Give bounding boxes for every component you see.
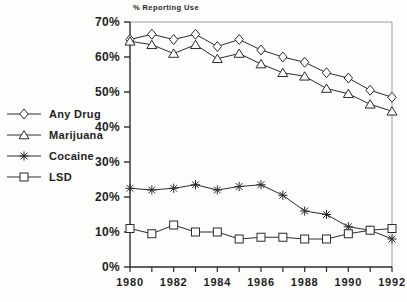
legend-marker-diamond-icon xyxy=(5,107,43,121)
x-tick-label: 1982 xyxy=(160,276,188,288)
y-tick-label: 20% xyxy=(95,190,120,204)
marker-diamond-any-drug-icon xyxy=(235,35,243,45)
marker-square-lsd-icon xyxy=(257,233,265,241)
marker-triangle-marijuana-icon xyxy=(234,49,244,57)
marker-diamond-any-drug-icon xyxy=(169,35,177,45)
marker-square-lsd-icon xyxy=(126,225,134,233)
y-tick-label: 70% xyxy=(95,15,120,29)
marker-square-lsd-icon xyxy=(301,235,309,243)
y-tick-label: 10% xyxy=(95,225,120,239)
marker-triangle-marijuana-icon xyxy=(256,60,266,68)
marker-diamond-any-drug-icon xyxy=(322,68,330,78)
x-tick-label: 1990 xyxy=(334,276,362,288)
x-tick-label: 1988 xyxy=(291,276,319,288)
y-tick-label: 50% xyxy=(95,85,120,99)
marker-square-lsd-icon xyxy=(366,226,374,234)
legend-item-lsd: LSD xyxy=(5,166,103,187)
marker-square-lsd-icon xyxy=(148,230,156,238)
marker-square-lsd-icon xyxy=(323,235,331,243)
x-tick-label: 1984 xyxy=(203,276,231,288)
marker-diamond-any-drug-icon xyxy=(366,85,374,95)
marker-triangle-marijuana-icon xyxy=(322,84,332,92)
marker-triangle-marijuana-icon xyxy=(387,107,397,115)
legend-item-cocaine: Cocaine xyxy=(5,145,103,166)
marker-square-lsd-icon xyxy=(344,230,352,238)
marker-triangle-marijuana-icon xyxy=(365,100,375,108)
chart-legend: Any DrugMarijuanaCocaineLSD xyxy=(5,103,103,187)
legend-marker-triangle-icon xyxy=(5,128,43,142)
marker-diamond-any-drug-icon xyxy=(148,29,156,39)
marker-diamond-any-drug-icon xyxy=(257,45,265,55)
marker-diamond-any-drug-icon xyxy=(300,57,308,67)
marker-square-lsd-icon xyxy=(388,225,396,233)
legend-label: LSD xyxy=(49,171,72,183)
marker-square-lsd-icon xyxy=(213,228,221,236)
y-tick-label: 0% xyxy=(102,260,120,274)
marker-square-lsd-icon xyxy=(235,235,243,243)
legend-label: Cocaine xyxy=(49,150,94,162)
x-tick-label: 1986 xyxy=(247,276,275,288)
y-tick-label: 60% xyxy=(95,50,120,64)
x-tick-label: 1992 xyxy=(378,276,406,288)
marker-square-lsd-icon xyxy=(170,221,178,229)
marker-triangle-marijuana-icon xyxy=(278,68,288,76)
x-tick-label: 1980 xyxy=(116,276,144,288)
marker-diamond-any-drug-icon xyxy=(191,29,199,39)
legend-label: Any Drug xyxy=(49,108,101,120)
chart-figure: % Reporting Use 0%10%20%30%40%50%60%70%1… xyxy=(0,0,407,302)
marker-diamond-any-drug-icon xyxy=(279,52,287,62)
legend-marker-square-icon xyxy=(5,170,43,184)
legend-item-any-drug: Any Drug xyxy=(5,103,103,124)
marker-diamond-any-drug-icon xyxy=(213,42,221,52)
marker-diamond-any-drug-icon xyxy=(344,73,352,83)
marker-square-lsd-icon xyxy=(192,228,200,236)
marker-square-lsd-icon xyxy=(279,233,287,241)
legend-marker-asterisk-icon xyxy=(5,149,43,163)
marker-triangle-marijuana-icon xyxy=(169,49,179,57)
legend-label: Marijuana xyxy=(49,129,103,141)
legend-item-marijuana: Marijuana xyxy=(5,124,103,145)
marker-diamond-any-drug-icon xyxy=(388,92,396,102)
marker-triangle-marijuana-icon xyxy=(191,40,201,48)
